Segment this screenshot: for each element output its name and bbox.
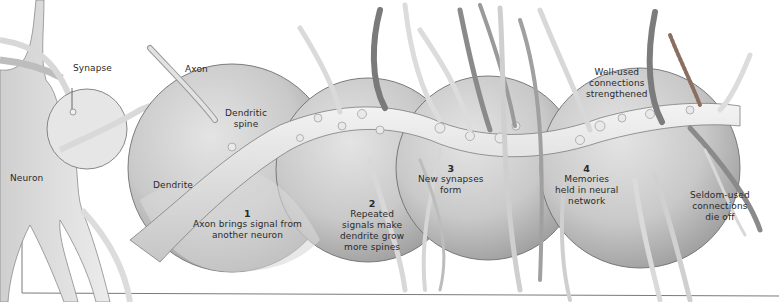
well-used-line-1: Well-used xyxy=(594,67,639,77)
stage-4-line-3: network xyxy=(568,196,605,206)
synapse-label: Synapse xyxy=(73,63,112,74)
seldom-used-line-3: die off xyxy=(705,212,734,222)
stage-2-line-2: signals make xyxy=(342,220,402,230)
dendritic-spine-line-2: spine xyxy=(234,119,259,129)
stage-4-caption: 4 Memories held in neural network xyxy=(555,163,618,207)
stage-1-line-2: another neuron xyxy=(212,230,283,240)
illustration-canvas xyxy=(0,0,779,302)
dendritic-spine-line-1: Dendritic xyxy=(225,108,267,118)
stage-1-line-1: Axon brings signal from xyxy=(193,219,302,229)
stage-4-number: 4 xyxy=(555,163,618,174)
synapse-circle xyxy=(47,89,127,169)
stage-3-caption: 3 New synapses form xyxy=(418,163,484,196)
seldom-used-label: Seldom-used connections die off xyxy=(690,190,750,223)
stage-2-line-4: more spines xyxy=(344,242,400,252)
stage-4-line-2: held in neural xyxy=(555,185,618,195)
stage-2-line-3: dendrite grow xyxy=(340,231,404,241)
stage-2-caption: 2 Repeated signals make dendrite grow mo… xyxy=(340,198,404,253)
well-used-line-3: strengthened xyxy=(586,89,648,99)
dendritic-spine-label: Dendritic spine xyxy=(225,108,267,130)
neuron-label: Neuron xyxy=(10,173,43,184)
neural-memory-diagram: Synapse Neuron Axon Dendritic spine Dend… xyxy=(0,0,779,302)
stage-3-line-1: New synapses xyxy=(418,174,484,184)
seldom-used-line-1: Seldom-used xyxy=(690,190,750,200)
stage-1-number: 1 xyxy=(193,208,302,219)
stage-2-number: 2 xyxy=(340,198,404,209)
seldom-used-line-2: connections xyxy=(692,201,747,211)
dendrite-label: Dendrite xyxy=(153,180,193,191)
stage-3-line-2: form xyxy=(440,185,461,195)
stage-3-number: 3 xyxy=(418,163,484,174)
well-used-label: Well-used connections strengthened xyxy=(586,67,648,100)
stage-2-line-1: Repeated xyxy=(350,209,394,219)
well-used-line-2: connections xyxy=(589,78,644,88)
stage-1-caption: 1 Axon brings signal from another neuron xyxy=(193,208,302,241)
axon-label: Axon xyxy=(185,64,208,75)
stage-4-line-1: Memories xyxy=(564,174,609,184)
